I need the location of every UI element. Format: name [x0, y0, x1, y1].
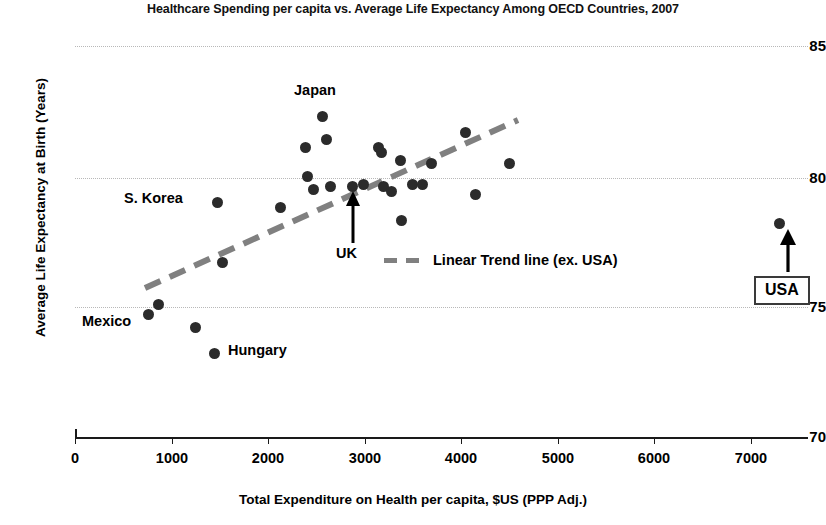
gridline-85 [75, 46, 808, 47]
x-tick-label-0: 0 [45, 450, 105, 466]
usa-label-box: USA [754, 276, 810, 305]
x-tick-mark-5000 [558, 437, 559, 444]
x-tick-mark-4000 [461, 437, 462, 444]
label-hungary: Hungary [228, 342, 287, 358]
data-point [308, 184, 319, 195]
gridline-80 [75, 178, 808, 179]
data-point [358, 179, 369, 190]
x-tick-mark-6000 [654, 437, 655, 444]
x-tick-label-7000: 7000 [721, 450, 781, 466]
gridline-75 [75, 307, 808, 308]
scatter-chart: Healthcare Spending per capita vs. Avera… [0, 0, 826, 525]
legend: Linear Trend line (ex. USA) [384, 252, 618, 268]
data-point-usa [774, 218, 785, 229]
x-tick-label-6000: 6000 [624, 450, 684, 466]
data-point [460, 127, 471, 138]
data-point [275, 202, 286, 213]
x-tick-label-2000: 2000 [238, 450, 298, 466]
data-point [417, 179, 428, 190]
x-tick-mark-3000 [365, 437, 366, 444]
x-tick-label-3000: 3000 [335, 450, 395, 466]
x-tick-mark-1000 [172, 437, 173, 444]
label-uk: UK [336, 245, 357, 261]
data-point [217, 257, 228, 268]
x-axis-line [75, 437, 808, 439]
data-point [302, 171, 313, 182]
data-point [395, 155, 406, 166]
data-point [470, 189, 481, 200]
data-point [190, 322, 201, 333]
x-tick-label-1000: 1000 [142, 450, 202, 466]
plot-area [75, 46, 808, 437]
y-axis-label: Average Life Expectancy at Birth (Years) [33, 8, 48, 408]
trendline-legend-swatch [384, 258, 424, 263]
x-tick-mark-0 [75, 437, 76, 444]
data-point [153, 299, 164, 310]
x-tick-label-4000: 4000 [431, 450, 491, 466]
trendline-legend-label: Linear Trend line (ex. USA) [433, 252, 618, 268]
x-tick-mark-7000 [751, 437, 752, 444]
label-s-korea: S. Korea [124, 190, 183, 206]
x-tick-mark-2000 [268, 437, 269, 444]
chart-title: Healthcare Spending per capita vs. Avera… [0, 2, 826, 16]
data-point-mexico [143, 309, 154, 320]
x-axis-label: Total Expenditure on Health per capita, … [0, 492, 826, 507]
label-japan: Japan [294, 82, 336, 98]
label-mexico: Mexico [82, 313, 131, 329]
x-tick-label-5000: 5000 [528, 450, 588, 466]
